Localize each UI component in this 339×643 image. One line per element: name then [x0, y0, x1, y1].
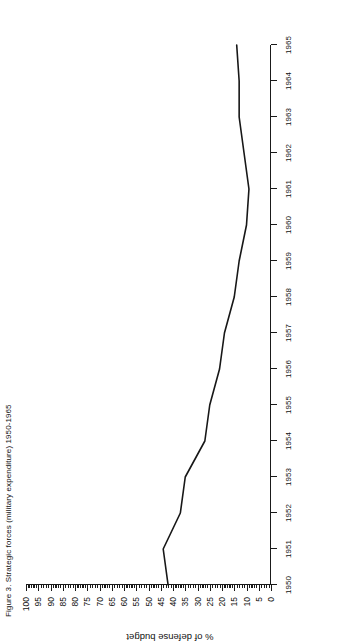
y-tick-minor	[134, 585, 135, 589]
y-tick-minor	[102, 585, 103, 589]
y-tick-minor	[131, 585, 132, 589]
plot-area: 1950195119521953195419551956195719581959…	[26, 45, 271, 585]
y-tick-label: 20	[217, 597, 227, 606]
y-tick-label: 25	[205, 597, 215, 606]
y-tick-label: 65	[107, 597, 117, 606]
y-tick-label: 35	[180, 597, 190, 606]
y-tick-minor	[55, 585, 56, 589]
y-tick-minor	[43, 585, 44, 589]
y-tick-minor	[53, 585, 54, 589]
y-tick-minor	[207, 585, 208, 589]
y-tick-label: 75	[82, 597, 92, 606]
y-tick-label: 70	[95, 597, 105, 606]
y-tick-minor	[212, 585, 213, 589]
y-tick-minor	[144, 585, 145, 589]
x-tick	[271, 224, 277, 225]
y-tick-minor	[60, 585, 61, 589]
y-tick-minor	[151, 585, 152, 589]
y-tick-minor	[178, 585, 179, 589]
x-tick-label: 1962	[284, 144, 293, 162]
y-tick-minor	[251, 585, 252, 589]
x-tick	[271, 548, 277, 549]
y-tick-major	[247, 585, 248, 591]
x-tick-label: 1958	[284, 288, 293, 306]
y-tick-major	[51, 585, 52, 591]
y-tick-major	[124, 585, 125, 591]
x-tick-label: 1951	[284, 540, 293, 558]
y-tick-label: 100	[21, 597, 31, 611]
y-tick-minor	[163, 585, 164, 589]
y-tick-minor	[193, 585, 194, 589]
chart-figure: Figure 3. Strategic forces (military exp…	[0, 0, 339, 643]
y-tick-minor	[264, 585, 265, 589]
y-tick-minor	[227, 585, 228, 589]
x-tick-label: 1965	[284, 36, 293, 54]
x-tick	[271, 152, 277, 153]
y-tick-minor	[256, 585, 257, 589]
y-tick-minor	[73, 585, 74, 589]
y-tick-minor	[220, 585, 221, 589]
y-tick-minor	[158, 585, 159, 589]
y-tick-minor	[77, 585, 78, 589]
x-tick-label: 1960	[284, 216, 293, 234]
y-tick-minor	[104, 585, 105, 589]
y-tick-minor	[244, 585, 245, 589]
x-tick	[271, 44, 277, 45]
y-tick-minor	[28, 585, 29, 589]
x-tick	[271, 440, 277, 441]
x-tick-label: 1955	[284, 396, 293, 414]
y-tick-minor	[266, 585, 267, 589]
x-tick	[271, 368, 277, 369]
y-tick-minor	[139, 585, 140, 589]
y-tick-minor	[119, 585, 120, 589]
x-tick	[271, 296, 277, 297]
x-tick-label: 1952	[284, 504, 293, 522]
x-tick-label: 1961	[284, 180, 293, 198]
y-tick-minor	[92, 585, 93, 589]
y-tick-minor	[232, 585, 233, 589]
y-tick-minor	[36, 585, 37, 589]
y-tick-minor	[254, 585, 255, 589]
y-tick-minor	[175, 585, 176, 589]
y-tick-label: 30	[193, 597, 203, 606]
y-tick-minor	[80, 585, 81, 589]
y-tick-minor	[188, 585, 189, 589]
y-tick-major	[185, 585, 186, 591]
y-tick-minor	[146, 585, 147, 589]
y-tick-minor	[195, 585, 196, 589]
y-tick-minor	[31, 585, 32, 589]
y-tick-minor	[114, 585, 115, 589]
y-tick-major	[149, 585, 150, 591]
x-tick-label: 1959	[284, 252, 293, 270]
y-tick-major	[198, 585, 199, 591]
y-tick-minor	[171, 585, 172, 589]
y-tick-major	[38, 585, 39, 591]
y-tick-minor	[141, 585, 142, 589]
y-tick-major	[173, 585, 174, 591]
y-tick-minor	[58, 585, 59, 589]
x-tick	[271, 476, 277, 477]
y-tick-label: 85	[58, 597, 68, 606]
y-tick-minor	[180, 585, 181, 589]
y-tick-major	[234, 585, 235, 591]
x-tick-label: 1954	[284, 432, 293, 450]
y-tick-minor	[95, 585, 96, 589]
y-tick-major	[26, 585, 27, 591]
y-tick-major	[210, 585, 211, 591]
series-path-defense-budget	[163, 45, 249, 585]
y-tick-minor	[190, 585, 191, 589]
y-tick-label: 95	[33, 597, 43, 606]
x-tick-label: 1963	[284, 108, 293, 126]
y-tick-minor	[97, 585, 98, 589]
y-tick-minor	[82, 585, 83, 589]
x-tick-label: 1953	[284, 468, 293, 486]
y-tick-label: 60	[119, 597, 129, 606]
y-tick-label: 15	[229, 597, 239, 606]
y-tick-major	[63, 585, 64, 591]
y-tick-major	[259, 585, 260, 591]
y-tick-minor	[90, 585, 91, 589]
x-tick-label: 1957	[284, 324, 293, 342]
y-tick-minor	[239, 585, 240, 589]
x-tick	[271, 512, 277, 513]
y-tick-label: 10	[242, 597, 252, 606]
